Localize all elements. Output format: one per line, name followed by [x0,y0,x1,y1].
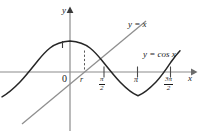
y-axis-label: y [62,6,66,15]
tick-label-pi-half: π 2 [99,76,105,93]
tick-label-pi: π [133,76,139,84]
tick-label-3pi-half-numerator: 3π [164,76,173,83]
origin-label: 0 [62,74,67,84]
y-axis-arrowhead [67,7,74,14]
tick-label-pi-text: π [133,76,139,84]
annotation-cos-equation: y = cos x [143,50,176,59]
tick-label-pi-half-denominator: 2 [99,85,105,92]
annotation-line-equation: y = x [128,20,147,29]
tick-label-3pi-half: 3π 2 [164,76,173,93]
root-label-r: r [80,76,83,84]
tick-label-3pi-half-denominator: 2 [164,85,173,92]
x-axis-label: x [188,74,192,83]
graph-canvas [0,0,199,135]
math-figure: y x 0 r y = x y = cos x π 2 π 3π 2 [0,0,199,135]
tick-label-pi-half-numerator: π [99,76,105,83]
